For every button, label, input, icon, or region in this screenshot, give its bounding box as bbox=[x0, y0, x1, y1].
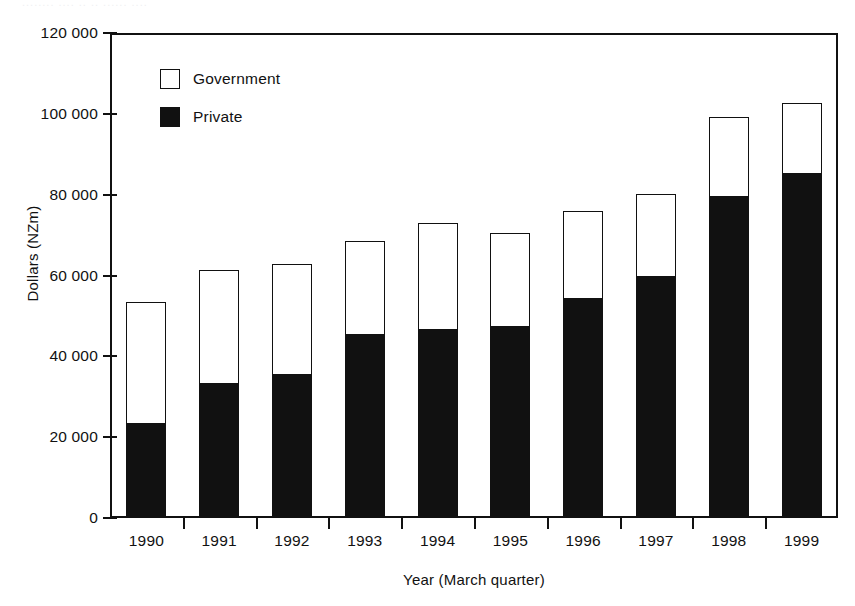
x-axis-tick bbox=[547, 518, 549, 529]
x-axis-tick bbox=[401, 518, 403, 529]
x-axis-tick bbox=[183, 518, 185, 529]
bars-layer bbox=[0, 0, 855, 606]
bar-1993 bbox=[345, 241, 385, 518]
x-axis-tick-label: 1990 bbox=[106, 532, 186, 550]
bar-1999 bbox=[782, 103, 822, 518]
x-axis-tick-label: 1993 bbox=[325, 532, 405, 550]
x-axis-tick bbox=[474, 518, 476, 529]
bar-1994 bbox=[418, 223, 458, 518]
bar-segment-government bbox=[563, 211, 603, 298]
legend-item-government: Government bbox=[160, 64, 280, 94]
bar-segment-private bbox=[418, 330, 458, 518]
bar-1997 bbox=[636, 194, 676, 518]
x-axis-tick bbox=[256, 518, 258, 529]
x-axis-tick-label: 1998 bbox=[689, 532, 769, 550]
x-axis-tick-label: 1999 bbox=[762, 532, 842, 550]
x-axis-tick-label: 1991 bbox=[179, 532, 259, 550]
x-axis-tick-label: 1996 bbox=[543, 532, 623, 550]
x-axis-tick-label: 1994 bbox=[398, 532, 478, 550]
bar-1990 bbox=[126, 302, 166, 518]
bar-1992 bbox=[272, 264, 312, 518]
bar-segment-government bbox=[709, 117, 749, 197]
bar-1996 bbox=[563, 211, 603, 518]
y-axis-tick bbox=[103, 194, 117, 196]
y-axis-tick bbox=[103, 436, 117, 438]
x-axis-tick-label: 1992 bbox=[252, 532, 332, 550]
legend-swatch-private-icon bbox=[160, 107, 180, 127]
legend-item-private: Private bbox=[160, 102, 280, 132]
bar-segment-government bbox=[126, 302, 166, 424]
bar-segment-government bbox=[636, 194, 676, 277]
bar-1995 bbox=[490, 233, 530, 518]
bar-segment-government bbox=[345, 241, 385, 334]
bar-segment-private bbox=[709, 197, 749, 518]
bar-segment-government bbox=[782, 103, 822, 174]
x-axis-tick-label: 1997 bbox=[616, 532, 696, 550]
bar-segment-private bbox=[782, 174, 822, 518]
bar-segment-government bbox=[418, 223, 458, 330]
x-axis-title: Year (March quarter) bbox=[110, 571, 838, 588]
x-axis-tick bbox=[692, 518, 694, 529]
bar-1991 bbox=[199, 270, 239, 518]
stacked-bar-chart: ........ .... .. .. ...... .... 020 0004… bbox=[0, 0, 855, 606]
x-axis-tick bbox=[765, 518, 767, 529]
y-axis-tick bbox=[103, 275, 117, 277]
y-axis-tick bbox=[103, 355, 117, 357]
bar-segment-government bbox=[199, 270, 239, 384]
y-axis-tick bbox=[103, 32, 117, 34]
bar-segment-government bbox=[490, 233, 530, 328]
legend-label-private: Private bbox=[193, 108, 243, 126]
bar-1998 bbox=[709, 117, 749, 518]
legend-label-government: Government bbox=[193, 70, 280, 88]
bar-segment-private bbox=[490, 327, 530, 518]
x-axis-tick-label: 1995 bbox=[470, 532, 550, 550]
bar-segment-private bbox=[272, 375, 312, 518]
bar-segment-private bbox=[126, 424, 166, 518]
bar-segment-government bbox=[272, 264, 312, 375]
legend-swatch-government-icon bbox=[160, 69, 180, 89]
y-axis-tick bbox=[103, 113, 117, 115]
x-axis-tick bbox=[620, 518, 622, 529]
y-axis-tick bbox=[103, 517, 117, 519]
bar-segment-private bbox=[345, 335, 385, 518]
legend: Government Private bbox=[160, 64, 280, 140]
x-axis-tick bbox=[328, 518, 330, 529]
bar-segment-private bbox=[636, 277, 676, 518]
bar-segment-private bbox=[563, 299, 603, 518]
bar-segment-private bbox=[199, 384, 239, 518]
